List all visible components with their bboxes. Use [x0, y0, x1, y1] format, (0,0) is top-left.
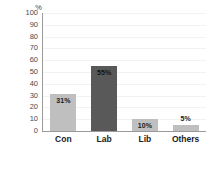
x-axis-label-others: Others — [165, 134, 206, 144]
y-axis-tick-label: 0 — [14, 127, 38, 135]
bar-slot: 31% — [43, 13, 84, 131]
bar-lab[interactable]: 55% — [91, 66, 117, 131]
x-axis-label-lab: Lab — [84, 134, 125, 144]
x-axis-line — [42, 131, 206, 132]
bar-slot: 5% — [165, 13, 206, 131]
y-axis-tick-label: 50 — [14, 68, 38, 76]
bar-slot: 55% — [84, 13, 125, 131]
y-axis-tick-label: 100 — [14, 9, 38, 17]
y-axis-tick-label: 20 — [14, 103, 38, 111]
bar-slot: 10% — [125, 13, 166, 131]
bar-value-label: 31% — [50, 97, 76, 105]
bar-lib[interactable]: 10% — [132, 119, 158, 131]
bars-container: 31%55%10%5% — [43, 13, 206, 131]
y-axis-tick-label: 40 — [14, 80, 38, 88]
x-axis-label-con: Con — [43, 134, 84, 144]
y-axis-tick-label: 70 — [14, 44, 38, 52]
plot-area: 1009080706050403020100 31%55%10%5% ConLa… — [14, 13, 206, 141]
y-axis-tick-label: 30 — [14, 92, 38, 100]
bar-chart: % 1009080706050403020100 31%55%10%5% Con… — [0, 0, 210, 170]
y-axis-tick-label: 90 — [14, 21, 38, 29]
bar-con[interactable]: 31% — [50, 94, 76, 131]
bar-value-label: 55% — [91, 69, 117, 77]
x-axis-labels: ConLabLibOthers — [43, 134, 206, 144]
bar-others[interactable]: 5% — [173, 125, 199, 131]
y-axis-tick-label: 80 — [14, 33, 38, 41]
x-axis-label-lib: Lib — [125, 134, 166, 144]
y-axis-ticks: 1009080706050403020100 — [14, 13, 40, 131]
bar-value-label: 10% — [132, 122, 158, 130]
y-axis-tick-label: 10 — [14, 115, 38, 123]
y-axis-tick-label: 60 — [14, 56, 38, 64]
bar-value-label: 5% — [173, 115, 199, 123]
